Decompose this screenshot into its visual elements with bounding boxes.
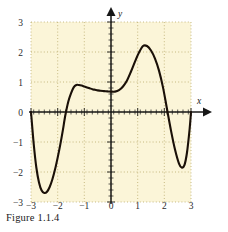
x-tick-label: −2 [53, 201, 63, 211]
y-axis-tick-labels: 3 2 1 0 −1 −2 −3 [13, 18, 23, 208]
y-tick-label: 3 [18, 18, 23, 28]
x-tick-label: 0 [109, 201, 114, 211]
x-axis-label: x [196, 96, 202, 106]
x-tick-label: 2 [162, 201, 167, 211]
x-tick-label: 1 [135, 201, 140, 211]
figure-container: x y −3 −2 −1 0 1 2 3 3 2 1 0 −1 −2 −3 Fi… [0, 0, 228, 232]
y-tick-label: −1 [13, 138, 23, 148]
x-tick-label: −3 [26, 201, 36, 211]
x-axis-tick-labels: −3 −2 −1 0 1 2 3 [26, 201, 194, 211]
y-tick-label: −3 [13, 198, 23, 208]
x-tick-label: −1 [79, 201, 89, 211]
figure-caption: Figure 1.1.4 [6, 212, 59, 223]
function-plot: x y −3 −2 −1 0 1 2 3 3 2 1 0 −1 −2 −3 [0, 0, 228, 232]
x-tick-label: 3 [189, 201, 194, 211]
x-axis-arrowhead [203, 108, 212, 117]
y-tick-label: 0 [18, 108, 23, 118]
y-axis-label: y [117, 9, 123, 19]
y-tick-label: −2 [13, 168, 23, 178]
y-tick-label: 1 [18, 78, 23, 88]
y-axis-arrowhead [107, 7, 116, 16]
y-tick-label: 2 [18, 48, 23, 58]
